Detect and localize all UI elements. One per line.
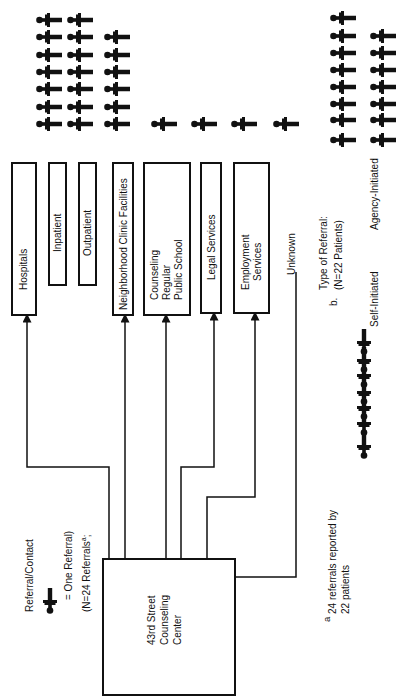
footnote-marker: a [321, 616, 332, 622]
legal-referral-icon [191, 117, 217, 131]
unknown-referral-icon [273, 117, 299, 131]
legend-person-icon [43, 588, 57, 614]
unknown-label: Unknown [286, 233, 297, 275]
legend-count-text: (N=24 Referrals [81, 541, 92, 612]
employment-referral-icon [231, 117, 257, 131]
self-initiated-icons [357, 329, 371, 459]
employment-label-line1: Employment [240, 234, 251, 290]
section-b-prefix: b. [328, 298, 339, 306]
connector-unknown [235, 272, 296, 577]
outpatient-label: Outpatient [82, 210, 93, 256]
hospitals-box [12, 163, 36, 315]
counseling-referral-icon [151, 117, 177, 131]
neighborhood-referral-icons [104, 30, 130, 131]
self-initiated-label: Self-Initiated [369, 271, 380, 327]
inpatient-referral-icons [36, 13, 62, 131]
section-b-subtitle: (N=22 Patients) [333, 220, 344, 290]
section-b-title: Type of Referral: [318, 216, 329, 290]
footnote-line1: 24 referrals reported by [327, 510, 338, 614]
connector-hospitals [27, 318, 109, 559]
legend-icon-meaning: = One Referral) [63, 531, 74, 600]
inpatient-label: Inpatient [52, 213, 63, 252]
center-label-line2: Counseling [159, 595, 170, 645]
footnote-line2: 22 patients [340, 565, 351, 614]
legend-title: Referral/Contact [24, 539, 35, 612]
agency-initiated-label: Agency-Initiated [369, 158, 380, 230]
connector-legal [181, 316, 214, 559]
employment-label-line2: Services [252, 243, 263, 281]
counseling-label-line2: Regular [161, 264, 172, 300]
legend-count-note: (N=24 Referralsa; [80, 534, 92, 612]
center-label-line3: Center [172, 614, 183, 645]
agency-initiated-icons [330, 11, 396, 147]
referral-diagram: Hospitals Inpatient Outpatient Neighborh… [0, 0, 415, 698]
legend-count-tail: ; [81, 534, 92, 537]
legal-label: Legal Services [206, 214, 217, 280]
outpatient-referral-icons [67, 13, 93, 131]
center-label-line1: 43rd Street [146, 595, 157, 645]
counseling-label-line3: Public School [173, 239, 184, 300]
counseling-label-line1: Counseling [149, 250, 160, 300]
hospitals-label: Hospitals [18, 249, 29, 290]
neighborhood-label: Neighborhood Clinic Facilities [118, 178, 129, 310]
